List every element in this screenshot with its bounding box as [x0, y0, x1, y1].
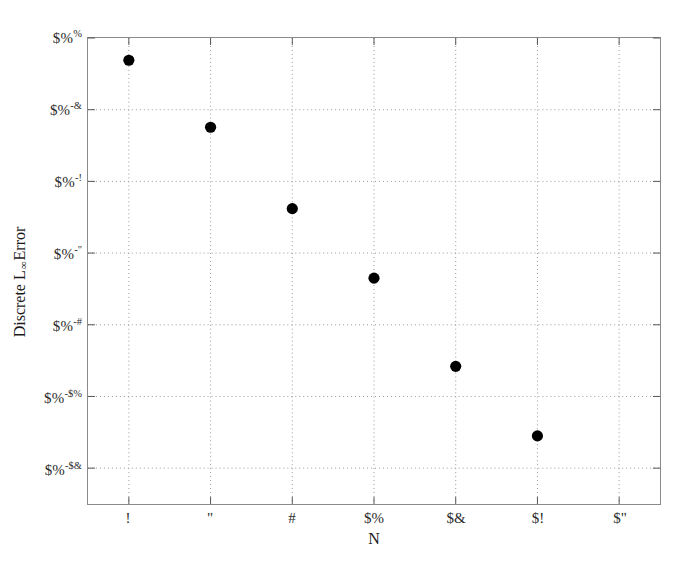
y-tick-mantissa: $%: [45, 462, 65, 478]
y-axis-tick-labels: $%%$%-&$%-!$%-"$%-#$%-$%$%-$&: [0, 37, 82, 505]
y-tick-mantissa: $%: [55, 174, 75, 190]
y-tick-exponent: -!: [75, 172, 82, 183]
x-axis-tick-label: ": [207, 511, 213, 526]
y-tick-exponent: %: [73, 28, 82, 39]
y-axis-tick-label: $%-&: [50, 101, 82, 118]
data-point-marker: [205, 122, 216, 133]
y-axis-tick-label: $%-!: [55, 173, 82, 190]
y-tick-mantissa: $%: [54, 246, 74, 262]
y-tick-exponent: -#: [73, 316, 82, 327]
y-tick-mantissa: $%: [53, 30, 73, 46]
x-axis-title: N: [87, 530, 661, 548]
x-axis-tick-label: #: [288, 511, 296, 526]
data-point-marker: [532, 430, 543, 441]
data-point-marker: [368, 273, 379, 284]
data-point-marker: [450, 361, 461, 372]
y-tick-exponent: -$%: [65, 388, 83, 399]
y-axis-tick-label: $%-": [54, 245, 82, 262]
figure-canvas: Discrete L∞ Error $%%$%-&$%-!$%-"$%-#$%-…: [0, 0, 698, 564]
y-tick-mantissa: $%: [44, 390, 64, 406]
x-axis-tick-label: $": [613, 511, 627, 526]
y-tick-mantissa: $%: [50, 102, 70, 118]
y-tick-exponent: -": [74, 244, 82, 255]
x-axis-tick-label: $!: [532, 511, 545, 526]
y-tick-mantissa: $%: [53, 318, 73, 334]
x-axis-tick-label: $%: [364, 511, 384, 526]
y-tick-exponent: -&: [70, 100, 82, 111]
plot-area: [87, 37, 661, 505]
y-axis-tick-label: $%-$%: [44, 389, 82, 406]
data-point-marker: [287, 203, 298, 214]
data-markers: [88, 38, 660, 504]
y-axis-tick-label: $%%: [53, 29, 82, 46]
x-axis-tick-label: !: [126, 511, 131, 526]
y-tick-exponent: -$&: [65, 460, 82, 471]
y-axis-tick-label: $%-#: [53, 317, 82, 334]
data-point-marker: [123, 55, 134, 66]
x-axis-tick-label: $&: [446, 511, 465, 526]
y-axis-tick-label: $%-$&: [45, 461, 82, 478]
